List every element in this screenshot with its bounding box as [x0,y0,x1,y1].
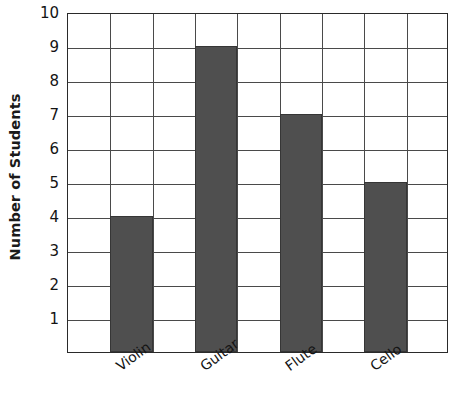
bar-cello [364,182,406,352]
y-tick-label: 5 [29,176,59,191]
y-tick-label: 4 [29,210,59,225]
y-axis-tick-labels: 12345678910 [30,0,63,411]
y-tick-label: 10 [29,6,59,21]
x-axis-tick-labels: ViolinGuitarFluteCello [67,353,448,411]
y-tick-label: 7 [29,108,59,123]
bar-violin [110,216,152,352]
y-tick-label: 9 [29,40,59,55]
bars [68,14,447,352]
y-tick-label: 8 [29,74,59,89]
bar-guitar [195,46,237,352]
y-axis-title-label: Number of Students [7,93,23,260]
y-tick-label: 3 [29,244,59,259]
plot-area [67,13,448,353]
bar-flute [280,114,322,352]
y-tick-label: 2 [29,278,59,293]
bar-chart: Number of Students 12345678910 ViolinGui… [0,0,454,411]
y-axis-title: Number of Students [0,0,30,353]
y-tick-label: 1 [29,312,59,327]
y-tick-label: 6 [29,142,59,157]
